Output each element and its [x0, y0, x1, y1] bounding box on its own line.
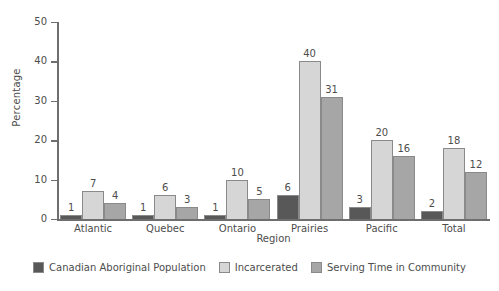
bar[interactable]: 1 [132, 215, 154, 219]
bar-group-bars: 174 [60, 22, 126, 219]
bar-chart: Percentage 01020304050 174Atlantic163Que… [0, 0, 499, 291]
bar-value-label: 5 [256, 186, 262, 198]
chart-legend: Canadian Aboriginal PopulationIncarcerat… [0, 262, 499, 273]
bar-group: 1105Ontario [204, 22, 270, 219]
x-axis-line [57, 219, 490, 221]
bar-value-label: 1 [212, 202, 218, 214]
bar[interactable]: 40 [299, 61, 321, 219]
bar-value-label: 16 [397, 143, 410, 155]
bar[interactable]: 1 [204, 215, 226, 219]
y-axis-tick: 10 [51, 180, 57, 181]
bar-group: 163Quebec [132, 22, 198, 219]
bar-group: 21812Total [421, 22, 487, 219]
bar-group-bars: 1105 [204, 22, 270, 219]
y-axis-tick-label: 10 [34, 173, 47, 186]
bar-value-label: 3 [357, 194, 363, 206]
legend-item[interactable]: Canadian Aboriginal Population [33, 262, 206, 273]
legend-label: Canadian Aboriginal Population [49, 262, 206, 273]
bar-group-bars: 163 [132, 22, 198, 219]
bar-group-bars: 64031 [277, 22, 343, 219]
y-axis-line [57, 22, 59, 219]
legend-swatch-icon [33, 262, 44, 273]
y-axis-tick-label: 20 [34, 133, 47, 146]
bar-value-label: 6 [162, 182, 168, 194]
legend-swatch-icon [311, 262, 322, 273]
bar-value-label: 4 [112, 190, 118, 202]
bar-value-label: 31 [325, 84, 338, 96]
bar[interactable]: 31 [321, 97, 343, 219]
bar[interactable]: 6 [154, 195, 176, 219]
bar[interactable]: 4 [104, 203, 126, 219]
bar[interactable]: 18 [443, 148, 465, 219]
x-axis-title: Region [57, 233, 490, 244]
bar[interactable]: 12 [465, 172, 487, 219]
bar[interactable]: 6 [277, 195, 299, 219]
bar-group-bars: 21812 [421, 22, 487, 219]
y-axis-tick-label: 40 [34, 54, 47, 67]
bar-group: 64031Prairies [277, 22, 343, 219]
legend-label: Incarcerated [235, 262, 298, 273]
bar-value-label: 20 [375, 127, 388, 139]
bar-value-label: 1 [140, 202, 146, 214]
bar[interactable]: 3 [349, 207, 371, 219]
bar-value-label: 12 [470, 159, 483, 171]
bar-group: 32016Pacific [349, 22, 415, 219]
y-axis-tick: 40 [51, 61, 57, 62]
bar-value-label: 7 [90, 178, 96, 190]
bar[interactable]: 3 [176, 207, 198, 219]
bar-group-bars: 32016 [349, 22, 415, 219]
bar[interactable]: 7 [82, 191, 104, 219]
bar-value-label: 6 [284, 182, 290, 194]
y-axis-tick-label: 30 [34, 94, 47, 107]
bar-value-label: 2 [429, 198, 435, 210]
bar[interactable]: 20 [371, 140, 393, 219]
y-axis-tick-label: 0 [41, 212, 47, 225]
bar[interactable]: 2 [421, 211, 443, 219]
y-axis-tick: 30 [51, 101, 57, 102]
bar-value-label: 3 [184, 194, 190, 206]
y-axis-tick: 50 [51, 22, 57, 23]
bar[interactable]: 1 [60, 215, 82, 219]
bar-value-label: 40 [303, 48, 316, 60]
bar[interactable]: 10 [226, 180, 248, 219]
y-axis-tick: 0 [51, 219, 57, 220]
y-axis-tick-label: 50 [34, 15, 47, 28]
legend-label: Serving Time in Community [327, 262, 466, 273]
plot-area: 01020304050 174Atlantic163Quebec1105Onta… [57, 22, 490, 219]
legend-item[interactable]: Serving Time in Community [311, 262, 466, 273]
bar-value-label: 1 [68, 202, 74, 214]
legend-item[interactable]: Incarcerated [219, 262, 298, 273]
bar-value-label: 10 [231, 167, 244, 179]
legend-swatch-icon [219, 262, 230, 273]
y-axis-tick: 20 [51, 140, 57, 141]
bar-group: 174Atlantic [60, 22, 126, 219]
y-axis-title: Percentage [11, 38, 22, 158]
bar-value-label: 18 [448, 135, 461, 147]
bar[interactable]: 16 [393, 156, 415, 219]
bar[interactable]: 5 [248, 199, 270, 219]
